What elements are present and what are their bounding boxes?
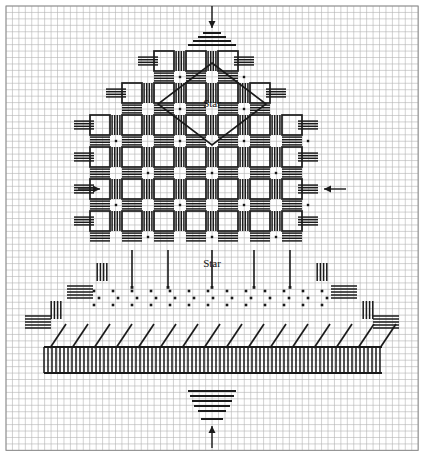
stitch-dot	[269, 297, 272, 300]
pattern-chart: StarStar	[0, 0, 424, 456]
stitch-dot	[150, 304, 153, 307]
stitch-dot	[226, 304, 229, 307]
chart-canvas: StarStar	[0, 0, 424, 456]
stitch-dot	[112, 304, 115, 307]
stitch-dot	[117, 297, 120, 300]
stitch-dot	[98, 297, 101, 300]
stitch-dot	[167, 286, 170, 289]
stitch-dot	[264, 290, 267, 293]
stitch-dot	[188, 290, 191, 293]
stitch-dot	[188, 304, 191, 307]
stitch-dot	[169, 304, 172, 307]
stitch-dot	[112, 290, 115, 293]
stitch-dot	[283, 304, 286, 307]
stitch-dot	[283, 290, 286, 293]
stitch-dot	[250, 297, 253, 300]
stitch-dot	[243, 140, 245, 142]
stitch-dot	[131, 290, 134, 293]
stitch-dot	[207, 290, 210, 293]
stitch-dot	[211, 236, 213, 238]
stitch-dot	[226, 290, 229, 293]
stitch-dot	[245, 290, 248, 293]
stitch-dot	[253, 286, 256, 289]
stitch-dot	[155, 297, 158, 300]
star-label-bottom: Star	[203, 257, 221, 269]
stitch-dot	[289, 286, 292, 289]
stitch-dot	[321, 304, 324, 307]
stitch-dot	[179, 204, 181, 206]
stitch-dot	[93, 304, 96, 307]
stitch-dot	[243, 76, 245, 78]
stitch-dot	[243, 204, 245, 206]
stitch-dot	[211, 172, 213, 174]
stitch-dot	[302, 304, 305, 307]
stitch-dot	[264, 304, 267, 307]
stitch-dot	[307, 204, 309, 206]
stitch-dot	[302, 290, 305, 293]
stitch-dot	[150, 290, 153, 293]
stitch-dot	[307, 297, 310, 300]
stitch-dot	[275, 236, 277, 238]
stitch-dot	[288, 297, 291, 300]
stitch-dot	[174, 297, 177, 300]
stitch-dot	[147, 172, 149, 174]
stitch-dot	[207, 304, 210, 307]
stitch-dot	[245, 304, 248, 307]
stitch-dot	[147, 236, 149, 238]
stitch-dot	[179, 76, 181, 78]
stitch-dot	[307, 140, 309, 142]
stitch-dot	[193, 297, 196, 300]
stitch-dot	[93, 290, 96, 293]
stitch-dot	[243, 108, 245, 110]
stitch-dot	[179, 108, 181, 110]
stitch-dot	[131, 286, 134, 289]
star-label-top: Star	[203, 97, 221, 109]
stitch-dot	[179, 140, 181, 142]
stitch-dot	[115, 204, 117, 206]
stitch-dot	[211, 286, 214, 289]
stitch-dot	[131, 304, 134, 307]
stitch-dot	[136, 297, 139, 300]
stitch-dot	[212, 297, 215, 300]
stitch-dot	[275, 172, 277, 174]
stitch-dot	[321, 290, 324, 293]
stitch-dot	[231, 297, 234, 300]
stitch-dot	[169, 290, 172, 293]
stitch-dot	[326, 297, 329, 300]
stitch-dot	[115, 140, 117, 142]
